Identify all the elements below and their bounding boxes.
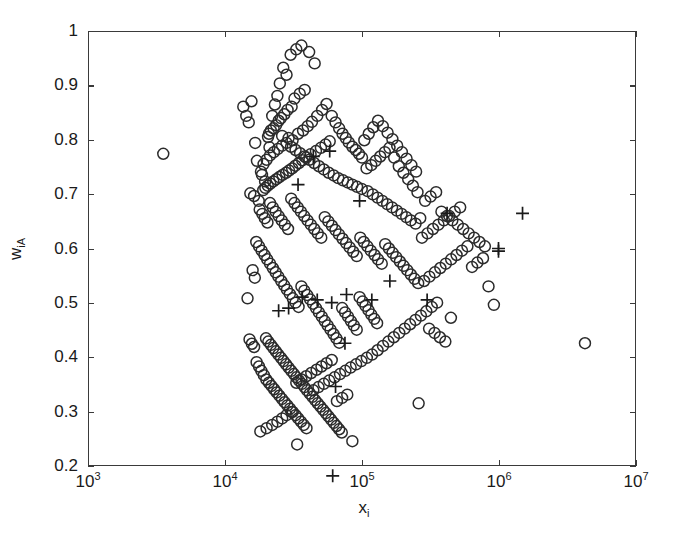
y-tick-mark [88,303,94,304]
data-point-circle [247,265,258,276]
x-tick-mark [225,460,226,466]
data-point-circle [281,69,292,80]
y-tick-label: 0.4 [54,347,78,367]
y-axis-label-subscript: iA [15,237,27,247]
x-tick-mantissa: 10 [75,472,94,491]
x-axis-label-base: x [359,498,368,517]
data-point-circle [249,272,260,283]
data-point-plus [272,304,285,317]
y-tick-label: 0.2 [54,456,78,476]
x-axis-label-subscript: i [367,507,369,519]
x-tick-mark-top [499,31,500,37]
data-point-circle [255,426,266,437]
x-tick-mantissa: 10 [486,472,505,491]
x-tick-exponent: 7 [642,470,648,482]
data-point-circle [483,281,494,292]
data-point-circle [309,58,320,69]
x-tick-mark [88,460,89,466]
y-tick-mark [88,140,94,141]
x-axis-label: xi [359,498,370,518]
data-point-circle [347,436,358,447]
data-point-circle [326,110,337,121]
y-tick-mark [88,249,94,250]
x-tick-exponent: 4 [231,470,237,482]
y-tick-mark-right [630,412,636,413]
x-tick-mark-top [362,31,363,37]
x-tick-label: 107 [623,472,648,492]
y-tick-label: 0.5 [54,293,78,313]
y-tick-mark [88,357,94,358]
x-tick-mark-top [88,31,89,37]
data-point-circle [242,293,253,304]
data-point-plus [292,178,305,191]
scatter-plot-figure: 10.90.80.70.60.50.40.30.2 wiA xi 1031041… [0,0,682,535]
x-tick-mantissa: 10 [623,472,642,491]
y-tick-label: 0.3 [54,402,78,422]
y-tick-mark [88,412,94,413]
y-tick-mark-right [630,303,636,304]
data-point-plus [326,469,339,482]
y-tick-mark-right [630,85,636,86]
y-axis-label: wiA [6,237,26,259]
x-tick-mark-top [636,31,637,37]
x-tick-label: 105 [349,472,374,492]
data-point-circle [413,398,424,409]
y-tick-label: 0.9 [54,75,78,95]
data-point-plus [383,275,396,288]
y-tick-label: 0.8 [54,130,78,150]
x-tick-exponent: 3 [94,470,100,482]
x-tick-mark [499,460,500,466]
data-point-circle [304,47,315,58]
y-tick-mark-right [630,249,636,250]
y-tick-label: 0.7 [54,184,78,204]
y-tick-mark-right [630,194,636,195]
data-point-plus [516,207,529,220]
x-tick-label: 104 [212,472,237,492]
data-markers-layer [89,32,635,465]
y-tick-mark [88,85,94,86]
series-circles [158,40,591,450]
data-point-plus [492,245,505,258]
data-point-circle [158,148,169,159]
data-point-circle [579,338,590,349]
y-tick-mark [88,466,94,467]
data-point-circle [292,439,303,450]
y-tick-mark-right [630,466,636,467]
plot-area [88,31,636,466]
x-tick-mark [636,460,637,466]
y-tick-mark [88,194,94,195]
data-point-plus [323,145,336,158]
data-point-circle [488,299,499,310]
x-tick-mark-top [225,31,226,37]
x-tick-exponent: 5 [368,470,374,482]
data-point-circle [445,312,456,323]
data-point-circle [375,151,386,162]
data-point-plus [340,288,353,301]
x-tick-label: 103 [75,472,100,492]
x-tick-mark [362,460,363,466]
x-tick-exponent: 6 [505,470,511,482]
x-tick-mantissa: 10 [349,472,368,491]
y-tick-label: 1 [69,21,78,41]
x-tick-label: 106 [486,472,511,492]
data-point-circle [243,117,254,128]
data-point-plus [353,194,366,207]
y-tick-label: 0.6 [54,239,78,259]
y-axis-tick-labels: 10.90.80.70.60.50.40.30.2 [0,0,78,535]
x-tick-mantissa: 10 [212,472,231,491]
y-tick-mark-right [630,140,636,141]
data-point-circle [250,137,261,148]
y-axis-label-base: w [6,247,25,259]
data-point-circle [246,96,257,107]
y-tick-mark-right [630,357,636,358]
data-point-circle [278,62,289,73]
